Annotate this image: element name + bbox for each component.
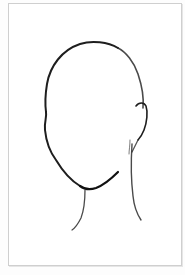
neck-left-line (72, 190, 85, 230)
neck-inner-stroke (129, 140, 130, 154)
right-jaw-line (132, 140, 138, 152)
face-outline-drawing (0, 0, 185, 275)
chin-jaw-line (80, 172, 118, 189)
neck-right-line (131, 144, 141, 220)
sketch-page: Blank face outline sketch (0, 0, 185, 275)
ear-outline (136, 103, 147, 140)
head-outline-right (118, 48, 143, 108)
head-outline-left (45, 42, 118, 186)
